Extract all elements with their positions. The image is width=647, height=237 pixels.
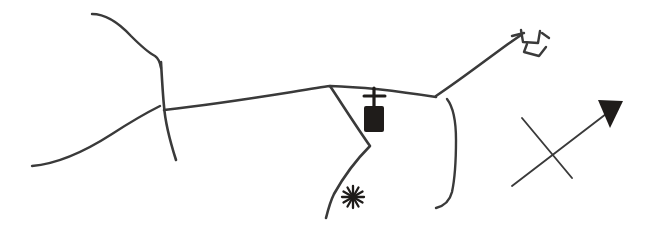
church-body [364, 106, 384, 132]
church-symbol [364, 88, 385, 132]
sketch-map-canvas [0, 0, 647, 237]
paper-background [0, 0, 647, 237]
sketch-map-drawing [0, 0, 647, 237]
